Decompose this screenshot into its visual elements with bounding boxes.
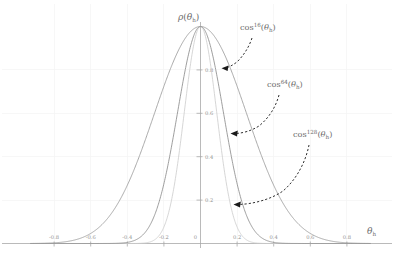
y-tick-label: 0.4 <box>205 154 214 160</box>
x-axis-title-sub: h <box>372 231 376 237</box>
y-tick-label: 0.2 <box>205 197 213 203</box>
x-tick-label: -0.8 <box>49 234 59 240</box>
y-tick-label: 0.8 <box>205 67 213 73</box>
plot-background <box>0 0 394 258</box>
cosine-lobe-plot: -0.8-0.6-0.4-0.200.20.40.60.8 0.20.40.60… <box>0 0 394 258</box>
y-axis-title: ρ(θh) <box>177 12 199 23</box>
y-tick-label: 0.6 <box>205 110 213 116</box>
chart-figure: -0.8-0.6-0.4-0.200.20.40.60.8 0.20.40.60… <box>0 0 394 258</box>
x-tick-label: 0.4 <box>270 234 279 240</box>
x-tick-label: 0 <box>194 234 197 240</box>
x-tick-label: 0.2 <box>233 234 241 240</box>
x-tick-label: 0.6 <box>306 234 314 240</box>
x-tick-label: -0.6 <box>86 234 96 240</box>
x-tick-label: -0.4 <box>122 234 133 240</box>
x-tick-label: 0.8 <box>343 234 351 240</box>
